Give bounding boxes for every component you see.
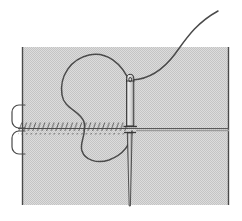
seam-stitch-marks <box>18 123 128 135</box>
technical-drawing: Suture needle and thread passing through… <box>0 0 242 221</box>
figure-canvas: Suture needle and thread passing through… <box>0 0 242 221</box>
needle-body-above-seam <box>127 74 134 126</box>
